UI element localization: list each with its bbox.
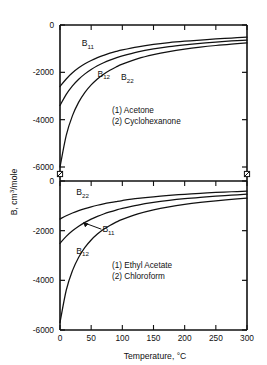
chart-background (0, 0, 267, 365)
legend-item: (2) Cyclohexanone (112, 117, 181, 126)
y-tick-label: -4000 (33, 275, 55, 285)
x-axis-title: Temperature, °C (124, 351, 187, 361)
x-tick-label: 0 (58, 333, 63, 343)
figure-container: 0-2000-4000-6000 B11B12B22 (1) Acetone(2… (0, 0, 267, 365)
x-tick-label: 100 (115, 333, 129, 343)
x-tick-label: 50 (87, 333, 97, 343)
y-tick-label: 0 (49, 176, 54, 186)
y-tick-label: -4000 (33, 115, 55, 125)
y-tick-label: -2000 (33, 226, 55, 236)
y-tick-label: -6000 (33, 325, 55, 335)
x-tick-label: 300 (240, 333, 254, 343)
legend-item: (1) Ethyl Acetate (112, 261, 173, 270)
y-tick-label: 0 (49, 20, 54, 30)
x-tick-label: 150 (147, 333, 161, 343)
legend-item: (2) Chloroform (112, 272, 165, 281)
x-tick-label: 200 (178, 333, 192, 343)
y-tick-label: -2000 (33, 67, 55, 77)
legend-item: (1) Acetone (112, 106, 154, 115)
virial-coefficient-chart: 0-2000-4000-6000 B11B12B22 (1) Acetone(2… (0, 0, 267, 365)
y-tick-label: -6000 (33, 162, 55, 172)
x-tick-label: 250 (209, 333, 223, 343)
